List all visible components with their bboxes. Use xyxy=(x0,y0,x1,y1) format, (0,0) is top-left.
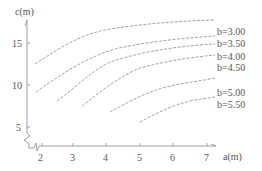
x-tick-3: 3 xyxy=(70,152,75,163)
x-tick-6: 6 xyxy=(170,152,175,163)
legend-b-4.00: b=4.00 xyxy=(217,51,245,62)
y-axis-break xyxy=(24,133,30,144)
legend-b-3.50: b=3.50 xyxy=(217,38,245,49)
legend-b-5.50: b=5.50 xyxy=(217,99,245,110)
legend-b-4.50: b=4.50 xyxy=(217,62,245,73)
y-tick-15: 15 xyxy=(12,38,22,49)
curve-b-5.00 xyxy=(110,78,215,112)
curve-b-4.50 xyxy=(82,55,215,106)
x-tick-7: 7 xyxy=(204,152,209,163)
chart: 15 10 5 2 3 4 5 6 7 c(m) a(m) b=3.00 b=3… xyxy=(0,0,262,171)
curve-b-4.00 xyxy=(57,44,215,101)
y-axis-label: c(m) xyxy=(15,6,34,18)
x-tick-5: 5 xyxy=(137,152,142,163)
y-tick-5: 5 xyxy=(16,122,21,133)
legend-b-3.00: b=3.00 xyxy=(217,26,245,37)
x-tick-4: 4 xyxy=(103,152,108,163)
curve-b-3.50 xyxy=(36,36,215,92)
x-axis xyxy=(29,143,216,151)
legend-b-5.00: b=5.00 xyxy=(217,87,245,98)
x-tick-2: 2 xyxy=(38,152,43,163)
y-tick-10: 10 xyxy=(12,80,22,91)
x-axis-label: a(m) xyxy=(223,151,242,163)
curve-b-5.50 xyxy=(140,97,215,122)
